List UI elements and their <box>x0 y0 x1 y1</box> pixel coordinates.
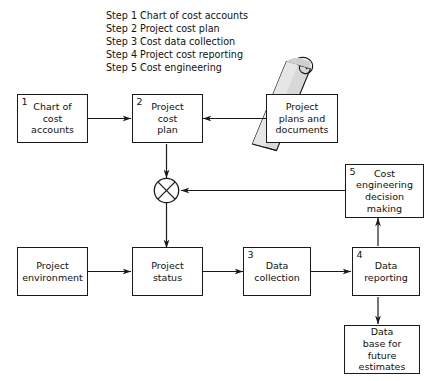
node-number-3: 3 <box>248 250 254 260</box>
node-cost-engineering-decision-making: 5 Cost engineering decision making <box>345 164 424 218</box>
node-project-cost-plan: 2 Project cost plan <box>132 94 203 143</box>
node-project-status: Project status <box>132 247 203 296</box>
step-line-1: Step 1 Chart of cost accounts <box>106 9 248 22</box>
step-line-4: Step 4 Project cost reporting <box>106 48 248 61</box>
node-data-reporting: 4 Data reporting <box>352 247 420 296</box>
node-label-project-cost-plan: Project cost plan <box>148 101 187 136</box>
node-number-1: 1 <box>22 97 28 107</box>
step-line-2: Step 2 Project cost plan <box>106 22 248 35</box>
node-project-plans-and-documents: Project plans and documents <box>266 94 338 143</box>
node-label-data-base-for-future-estimates: Data base for future estimates <box>356 326 409 372</box>
node-label-project-status: Project status <box>148 260 187 283</box>
node-label-cost-engineering-decision-making: Cost engineering decision making <box>353 168 416 214</box>
node-label-project-environment: Project environment <box>19 260 86 283</box>
node-data-collection: 3 Data collection <box>243 247 311 296</box>
node-number-5: 5 <box>350 167 356 177</box>
node-chart-of-cost-accounts: 1 Chart of cost accounts <box>17 94 88 143</box>
x-circle-junction-icon <box>154 178 178 202</box>
node-number-4: 4 <box>357 250 363 260</box>
node-label-data-reporting: Data reporting <box>361 260 411 283</box>
step-line-5: Step 5 Cost engineering <box>106 61 248 74</box>
step-line-3: Step 3 Cost data collection <box>106 35 248 48</box>
node-label-project-plans-and-documents: Project plans and documents <box>273 101 332 136</box>
node-project-environment: Project environment <box>17 247 88 296</box>
node-label-data-collection: Data collection <box>251 260 303 283</box>
node-label-chart-of-cost-accounts: Chart of cost accounts <box>28 101 77 136</box>
node-data-base-for-future-estimates: Data base for future estimates <box>344 325 420 374</box>
process-flow-diagram: Step 1 Chart of cost accounts Step 2 Pro… <box>0 0 441 381</box>
steps-legend: Step 1 Chart of cost accounts Step 2 Pro… <box>106 9 248 74</box>
node-number-2: 2 <box>137 97 143 107</box>
